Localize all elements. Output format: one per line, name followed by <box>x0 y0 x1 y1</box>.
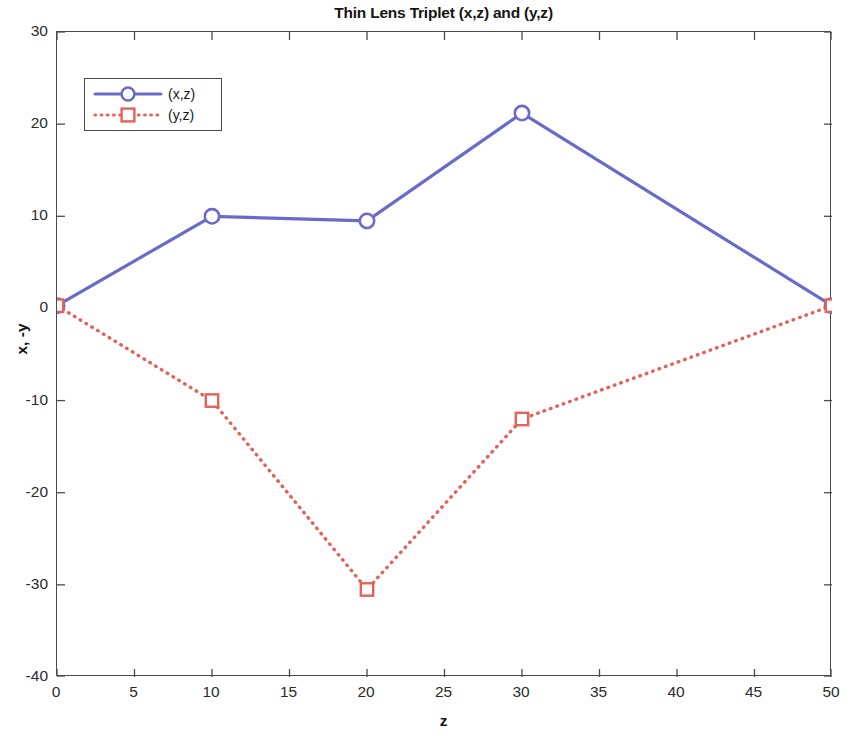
legend-label-y-z: (y,z) <box>168 107 194 123</box>
data-point-marker <box>57 299 63 311</box>
x-tick-label: 20 <box>357 683 374 701</box>
data-point-marker <box>205 209 219 223</box>
legend-swatch-y-z <box>91 105 165 125</box>
legend-entry-y-z: (y,z) <box>85 104 223 125</box>
x-axis-tick-labels: 05101520253035404550 <box>56 683 831 705</box>
x-tick-label: 10 <box>202 683 219 701</box>
x-tick-label: 50 <box>822 683 839 701</box>
data-point-marker <box>206 394 218 406</box>
y-axis-label: x, -y <box>13 294 31 384</box>
legend-swatch-x-z <box>91 84 165 104</box>
y-tick-label: 10 <box>31 206 48 224</box>
data-point-marker <box>515 106 529 120</box>
y-tick-label: 20 <box>31 114 48 132</box>
x-tick-label: 25 <box>435 683 452 701</box>
x-tick-label: 45 <box>745 683 762 701</box>
x-tick-label: 40 <box>667 683 684 701</box>
data-point-marker <box>826 299 832 311</box>
y-tick-label: -10 <box>26 391 48 409</box>
x-tick-label: 0 <box>52 683 61 701</box>
x-tick-label: 15 <box>280 683 297 701</box>
chart-title: Thin Lens Triplet (x,z) and (y,z) <box>56 4 831 22</box>
x-tick-label: 35 <box>590 683 607 701</box>
legend-label-x-z: (x,z) <box>168 86 195 102</box>
y-tick-label: -20 <box>26 483 48 501</box>
x-tick-label: 30 <box>512 683 529 701</box>
data-point-marker <box>516 413 528 425</box>
series-line-1 <box>57 306 832 590</box>
legend-entry-x-z: (x,z) <box>85 83 223 104</box>
y-tick-label: 30 <box>31 22 48 40</box>
y-tick-label: -40 <box>26 667 48 685</box>
chart-legend: (x,z) (y,z) <box>84 78 222 131</box>
chart-figure: Thin Lens Triplet (x,z) and (y,z) 302010… <box>0 0 846 743</box>
data-point-marker <box>361 583 373 595</box>
x-axis-label: z <box>56 712 831 730</box>
x-tick-label: 5 <box>129 683 138 701</box>
y-tick-label: 0 <box>39 298 48 316</box>
y-tick-label: -30 <box>26 575 48 593</box>
series-line-0 <box>57 113 832 306</box>
data-point-marker <box>360 214 374 228</box>
